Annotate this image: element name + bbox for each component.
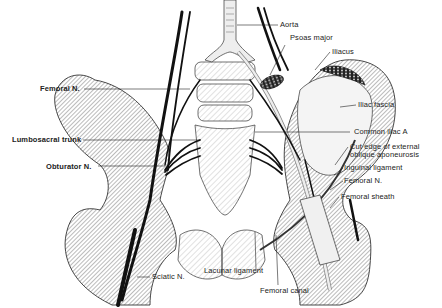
label-cut-edge: Cut edge of external oblique aponeurosis xyxy=(350,143,430,159)
label-common-iliac-a: Common iliac A xyxy=(354,128,408,136)
label-sciatic-n: Sciatic N. xyxy=(152,273,185,281)
label-femoral-n-right: Femoral N. xyxy=(344,177,382,185)
label-femoral-sheath: Femoral sheath xyxy=(341,193,395,201)
label-inguinal-ligament: Inguinal ligament xyxy=(344,164,402,172)
label-iliac-fascia: Iliac fascia xyxy=(358,101,394,109)
label-psoas-major: Psoas major xyxy=(290,34,333,42)
label-obturator-n: Obturator N. xyxy=(46,163,91,171)
label-aorta: Aorta xyxy=(280,21,298,29)
label-femoral-n-left: Femoral N. xyxy=(40,85,80,93)
left-hip-bone xyxy=(55,75,177,305)
label-femoral-canal: Femoral canal xyxy=(260,287,309,295)
label-iliacus: Iliacus xyxy=(332,48,354,56)
label-lumbosacral-trunk: Lumbosacral trunk xyxy=(12,136,81,144)
label-lacunar-ligament: Lacunar ligament xyxy=(204,267,263,275)
